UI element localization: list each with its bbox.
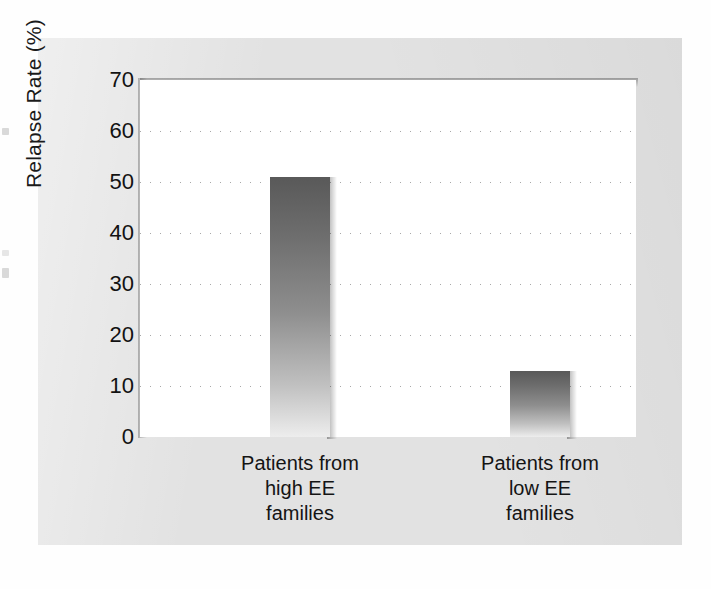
page-edge-artifact [2, 128, 9, 135]
y-tick-label: 0 [82, 426, 134, 448]
bar-body [270, 177, 330, 437]
bar-body [510, 371, 570, 437]
page-edge-artifact [2, 250, 9, 256]
gridline [140, 284, 636, 285]
chart-figure-panel: Relapse Rate (%) 706050403020100 Patient… [38, 38, 682, 545]
y-tick-label: 70 [82, 69, 134, 91]
y-tick-label: 40 [82, 222, 134, 244]
y-tick-label: 60 [82, 120, 134, 142]
y-tick-label: 50 [82, 171, 134, 193]
x-category-label: Patients from low EE families [440, 451, 640, 526]
gridline [140, 335, 636, 336]
gridline [140, 233, 636, 234]
y-tick-label: 10 [82, 375, 134, 397]
y-tick-label: 20 [82, 324, 134, 346]
gridline [140, 182, 636, 183]
x-category-label: Patients from high EE families [200, 451, 400, 526]
y-axis-title: Relapse Rate (%) [22, 0, 46, 188]
bar [270, 177, 330, 437]
y-axis-tick-labels: 706050403020100 [68, 38, 134, 545]
scanned-page: Relapse Rate (%) 706050403020100 Patient… [0, 0, 711, 589]
plot-area [140, 80, 636, 437]
page-edge-artifact [2, 268, 9, 278]
gridline [140, 131, 636, 132]
y-tick-label: 30 [82, 273, 134, 295]
bar [510, 371, 570, 437]
